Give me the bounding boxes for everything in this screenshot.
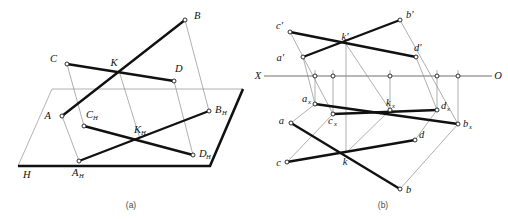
node-AH xyxy=(77,159,81,163)
node-CH xyxy=(82,124,86,128)
panel-a-nodes xyxy=(60,18,211,163)
figure-root: A B C D K A H B H C H D xyxy=(0,0,508,219)
panel-b-labels: a' b' c' d' k' a b c d k a x b x xyxy=(276,9,472,195)
axis-node-ax xyxy=(313,74,317,78)
label-kx-sub: x xyxy=(391,102,395,109)
label-a: a xyxy=(279,115,284,126)
node-DH xyxy=(191,153,195,157)
label-a-prime: a' xyxy=(277,52,285,63)
label-d-prime: d' xyxy=(414,42,422,53)
label-A: A xyxy=(44,110,52,121)
label-DH: D H xyxy=(198,148,212,160)
node-ax xyxy=(313,102,317,106)
label-ax: a x xyxy=(302,93,311,105)
label-cx: c x xyxy=(328,115,337,127)
label-O-axis: O xyxy=(494,70,502,81)
projector-b xyxy=(185,20,209,111)
panel-a-group: A B C D K A H B H C H D xyxy=(18,10,243,210)
label-B: B xyxy=(194,10,201,21)
projector-a xyxy=(62,116,79,161)
caption-panel-b: (b) xyxy=(378,200,389,210)
node-dx xyxy=(435,108,439,112)
node-a-prime xyxy=(301,55,305,59)
label-dx-sub: x xyxy=(446,105,450,112)
label-AH-sub: H xyxy=(78,172,85,179)
label-b-prime: b' xyxy=(406,9,414,20)
label-kx-base: k xyxy=(386,97,391,108)
label-d: d xyxy=(419,129,425,140)
axis-node-kx xyxy=(388,74,392,78)
panel-b-group: X O xyxy=(254,9,502,210)
panel-a-lines xyxy=(62,20,209,161)
axis-node-dx xyxy=(435,74,439,78)
label-ax-sub: x xyxy=(307,98,311,105)
label-CH-sub: H xyxy=(92,114,99,121)
label-X-axis: X xyxy=(254,70,262,81)
label-ax-base: a xyxy=(302,93,307,104)
label-kx: k x xyxy=(386,97,395,109)
panel-b-nodes xyxy=(285,18,460,191)
projector-ax-to-a xyxy=(291,104,315,123)
projector-d-prime-to-dx xyxy=(416,57,437,110)
label-bx-sub: x xyxy=(468,123,472,130)
label-KH: K H xyxy=(133,124,147,136)
label-dx: d x xyxy=(441,100,450,112)
label-c: c xyxy=(276,157,281,168)
node-C xyxy=(65,62,69,66)
label-D: D xyxy=(174,63,183,74)
label-k-prime: k' xyxy=(342,31,350,42)
label-H-plane: H xyxy=(22,169,32,180)
label-K: K xyxy=(109,57,118,68)
node-a xyxy=(289,121,293,125)
panel-b-frontal-lines xyxy=(290,20,416,57)
node-b-prime xyxy=(398,18,402,22)
label-AH-base: A xyxy=(71,167,79,178)
label-cx-base: c xyxy=(328,115,333,126)
projector-c-prime-to-cx xyxy=(290,32,333,114)
line-CD xyxy=(67,64,174,81)
label-k: k xyxy=(343,156,348,167)
label-BH-base: B xyxy=(215,104,222,115)
node-bx xyxy=(456,122,460,126)
node-B xyxy=(183,18,187,22)
label-c-prime: c' xyxy=(276,20,284,31)
caption-panel-a: (a) xyxy=(126,200,137,210)
label-CH: C H xyxy=(86,109,99,121)
panel-b-horizontal-lines xyxy=(287,123,415,189)
projector-bx-to-b xyxy=(400,124,458,189)
projector-c xyxy=(67,64,84,126)
line-c-prime-d-prime xyxy=(290,32,416,57)
projector-k-prime-to-kx xyxy=(346,44,390,110)
label-BH-sub: H xyxy=(221,109,228,116)
node-A xyxy=(60,114,64,118)
node-c-prime xyxy=(288,30,292,34)
label-cx-sub: x xyxy=(333,120,337,127)
line-AB xyxy=(62,20,185,116)
node-d-prime xyxy=(414,55,418,59)
label-bx-base: b xyxy=(463,118,468,129)
label-BH: B H xyxy=(215,104,228,116)
label-b: b xyxy=(406,184,411,195)
label-DH-sub: H xyxy=(205,153,212,160)
axis-node-bx xyxy=(456,74,460,78)
axis-node-cx xyxy=(331,74,335,78)
label-AH: A H xyxy=(71,167,85,179)
node-D xyxy=(172,79,176,83)
label-C: C xyxy=(50,53,58,64)
node-d xyxy=(413,138,417,142)
panel-a-labels: A B C D K A H B H C H D xyxy=(22,10,228,180)
node-BH xyxy=(207,109,211,113)
node-b xyxy=(398,187,402,191)
geometry-figure-svg: A B C D K A H B H C H D xyxy=(0,0,508,219)
label-bx: b x xyxy=(463,118,472,130)
node-c xyxy=(285,160,289,164)
